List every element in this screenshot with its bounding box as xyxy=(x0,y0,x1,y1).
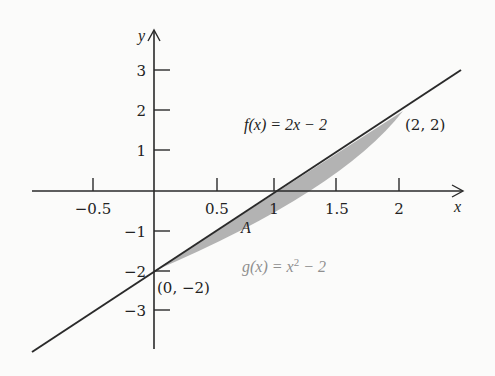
y-axis-label: y xyxy=(136,27,146,45)
f-label: f(x) = 2x − 2 xyxy=(244,116,327,134)
y-tick-label-m1: −1 xyxy=(124,223,146,241)
chart-canvas: −0.5 0.5 1 1.5 2 x 3 2 1 −1 −2 −3 y f(x)… xyxy=(0,0,495,376)
x-axis-label: x xyxy=(453,198,461,215)
y-ticks xyxy=(154,70,170,310)
y-tick-label-1: 1 xyxy=(136,142,146,160)
x-tick-label-m05: −0.5 xyxy=(75,200,111,218)
y-tick-label-2: 2 xyxy=(136,102,146,120)
g-label: g(x) = x2 − 2 xyxy=(242,256,326,276)
point-label-2-2: (2, 2) xyxy=(405,116,445,134)
region-label-a: A xyxy=(240,219,251,236)
x-tick-label-2: 2 xyxy=(394,200,404,218)
x-tick-label-05: 0.5 xyxy=(205,200,229,218)
y-tick-label-m3: −3 xyxy=(124,302,146,320)
point-label-0-m2: (0, −2) xyxy=(157,279,210,297)
x-ticks xyxy=(93,178,399,191)
x-tick-label-15: 1.5 xyxy=(325,200,349,218)
y-tick-label-3: 3 xyxy=(136,62,146,80)
y-tick-label-m2: −2 xyxy=(124,263,146,281)
x-tick-label-1: 1 xyxy=(269,200,279,218)
